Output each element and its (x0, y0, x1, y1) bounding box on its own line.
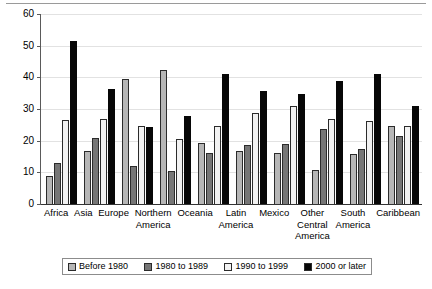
y-axis-tick-mark (37, 204, 41, 205)
top-divider-rule (6, 3, 426, 4)
bar-group (46, 14, 77, 204)
legend-item[interactable]: 2000 or later (304, 262, 366, 271)
bar (282, 144, 289, 204)
legend-label: 1990 to 1999 (235, 262, 288, 271)
bar-group (198, 14, 229, 204)
bar (222, 74, 229, 204)
bar (312, 170, 319, 204)
bar (84, 151, 91, 204)
bar (366, 121, 373, 204)
bar (70, 41, 77, 204)
x-axis-category-label: Northern America (135, 207, 172, 255)
bar-group (388, 14, 419, 204)
legend-swatch (304, 263, 312, 271)
bar (146, 127, 153, 204)
bar (328, 119, 335, 204)
x-axis-category-label: Europe (98, 207, 129, 255)
y-axis-tick-label: 60 (23, 9, 34, 19)
bar (374, 74, 381, 204)
bar (320, 129, 327, 204)
y-axis-tick-label: 30 (23, 104, 34, 114)
x-axis-category-label: Oceania (177, 207, 212, 255)
x-axis-category-label: Caribbean (376, 207, 420, 255)
bar (358, 149, 365, 204)
bar (260, 91, 267, 204)
x-axis-category-label: Asia (74, 207, 92, 255)
legend-swatch (144, 263, 152, 271)
x-axis-category-label: Africa (44, 207, 68, 255)
bar-chart-figure: 0102030405060 AfricaAsiaEuropeNorthern A… (0, 0, 432, 289)
bar-group (350, 14, 381, 204)
bar-group (236, 14, 267, 204)
bar (388, 126, 395, 204)
bar (184, 116, 191, 204)
x-axis-category-label: Latin America (219, 207, 254, 255)
bar (54, 163, 61, 204)
x-axis-category-label: Other Central America (295, 207, 330, 255)
bar-group (274, 14, 305, 204)
legend-label: 2000 or later (315, 262, 366, 271)
bar (252, 113, 259, 204)
bar (122, 79, 129, 204)
bar (206, 153, 213, 204)
bar (130, 166, 137, 204)
legend-item[interactable]: 1980 to 1989 (144, 262, 208, 271)
legend-label: Before 1980 (79, 262, 128, 271)
bar-group (312, 14, 343, 204)
bar (138, 126, 145, 204)
bar (336, 81, 343, 204)
bar-group (160, 14, 191, 204)
legend-label: 1980 to 1989 (155, 262, 208, 271)
bar (298, 94, 305, 204)
plot-area: 0102030405060 (40, 14, 422, 205)
x-axis-category-label: South America (336, 207, 371, 255)
y-axis-tick-label: 40 (23, 72, 34, 82)
bar (244, 145, 251, 204)
legend-swatch (68, 263, 76, 271)
bar (350, 154, 357, 204)
bar (62, 120, 69, 204)
bar (290, 106, 297, 204)
bar-group (84, 14, 115, 204)
chart-legend: Before 19801980 to 19891990 to 19992000 … (62, 258, 372, 275)
bar (396, 136, 403, 204)
bar (214, 126, 221, 204)
legend-item[interactable]: Before 1980 (68, 262, 128, 271)
y-axis-tick-label: 50 (23, 41, 34, 51)
bar-group (122, 14, 153, 204)
bar (92, 138, 99, 204)
bar-groups (41, 14, 422, 204)
bar (198, 143, 205, 204)
bar (236, 151, 243, 204)
x-axis-category-labels: AfricaAsiaEuropeNorthern AmericaOceaniaL… (40, 207, 422, 255)
bar (46, 176, 53, 205)
legend-swatch (224, 263, 232, 271)
bar (168, 171, 175, 204)
bar (274, 153, 281, 204)
x-axis-category-label: Mexico (259, 207, 289, 255)
y-axis-tick-label: 0 (28, 199, 34, 209)
bar (108, 89, 115, 204)
y-axis-tick-label: 10 (23, 167, 34, 177)
bar (100, 119, 107, 204)
bar (176, 139, 183, 204)
bar (404, 126, 411, 204)
legend-item[interactable]: 1990 to 1999 (224, 262, 288, 271)
bar (412, 106, 419, 204)
y-axis-tick-label: 20 (23, 136, 34, 146)
bar (160, 70, 167, 204)
